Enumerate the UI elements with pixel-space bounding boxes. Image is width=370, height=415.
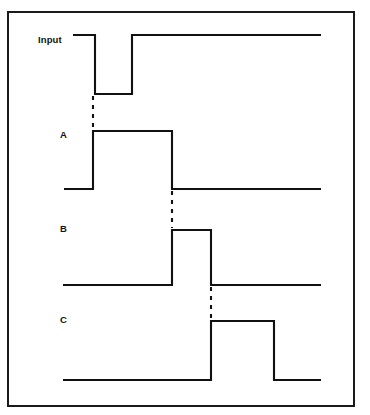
waveform-canvas xyxy=(0,0,370,415)
signal-trace-c xyxy=(63,321,321,380)
signal-label-a: A xyxy=(60,130,67,140)
signal-trace-a xyxy=(64,131,321,189)
signal-label-b: B xyxy=(60,224,67,234)
signal-traces xyxy=(63,35,321,380)
signal-trace-b xyxy=(63,230,321,285)
signal-trace-input xyxy=(73,35,321,94)
signal-label-c: C xyxy=(60,315,67,325)
timing-diagram-figure: Input A B C xyxy=(0,0,370,415)
signal-label-input: Input xyxy=(38,35,62,45)
